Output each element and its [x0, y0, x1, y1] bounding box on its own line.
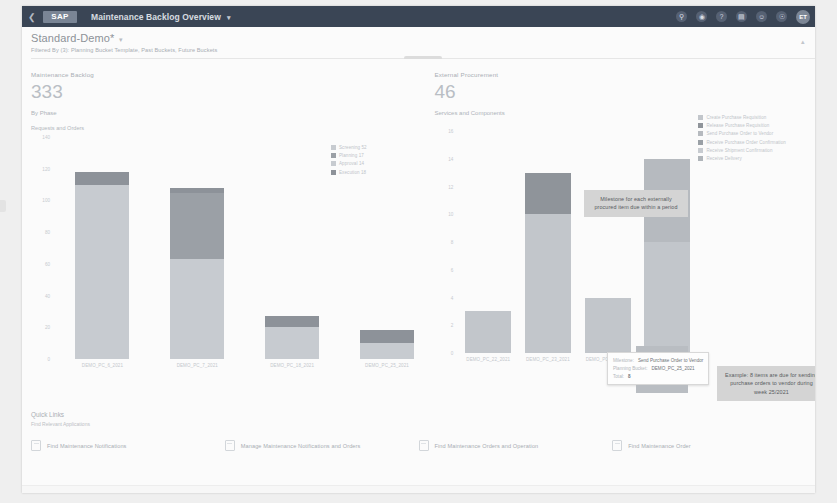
bar-segment[interactable]: [465, 311, 511, 353]
legend-item[interactable]: Receive Shipment Confirmation: [698, 148, 786, 153]
tooltip-row-milestone: Milestone: Send Purchase Order to Vendor: [613, 357, 703, 365]
stacked-bar[interactable]: [525, 173, 571, 353]
bar-group-left: [55, 137, 434, 359]
back-icon[interactable]: ❮: [28, 12, 36, 22]
bar-segment[interactable]: [170, 193, 224, 260]
variant-row: Standard-Demo* ▾: [31, 32, 815, 44]
bell-icon[interactable]: ☉: [776, 11, 787, 22]
bar-segment[interactable]: [265, 327, 319, 359]
bar-segment[interactable]: [75, 185, 129, 245]
chevron-down-icon[interactable]: ▾: [119, 36, 123, 44]
app-tile-icon: [612, 440, 622, 451]
footer-bar: [22, 485, 815, 493]
stacked-bar[interactable]: [465, 311, 511, 353]
stacked-bar[interactable]: [644, 159, 690, 353]
filtered-by-text[interactable]: Filtered By (3): Planning Bucket Templat…: [31, 47, 815, 53]
y-axis-tick: 100: [42, 198, 50, 203]
bar-segment[interactable]: [265, 316, 319, 327]
y-axis-tick: 120: [42, 166, 50, 171]
notes-icon[interactable]: ▤: [736, 11, 747, 22]
quick-link-item[interactable]: Find Maintenance Order: [612, 440, 806, 451]
bar-segment[interactable]: [360, 343, 414, 359]
bar-slot: [245, 137, 340, 359]
legend-label: Execution 18: [339, 170, 366, 175]
callout-milestone: Milestone for each externally procured i…: [584, 190, 688, 217]
quick-links-subtitle: Find Relevant Applications: [31, 421, 806, 427]
help-icon[interactable]: ?: [716, 11, 727, 22]
y-axis-tick: 10: [448, 212, 453, 217]
plot-area-left: [55, 137, 434, 359]
bar-segment[interactable]: [170, 259, 224, 359]
bar-segment[interactable]: [585, 298, 631, 354]
app-tile-icon: [225, 440, 235, 451]
tooltip-total-key: Total:: [613, 373, 624, 381]
y-axis-tick: 8: [451, 240, 454, 245]
legend-item[interactable]: Send Purchase Order to Vendor: [698, 131, 786, 136]
tooltip-row-total: Total: 8: [613, 373, 703, 381]
legend-swatch-icon: [331, 153, 336, 158]
stacked-bar[interactable]: [360, 330, 414, 359]
y-axis-tick: 40: [45, 293, 50, 298]
app-title[interactable]: Maintenance Backlog Overview ▾: [91, 12, 231, 22]
search-icon[interactable]: ⚲: [676, 11, 687, 22]
x-axis-label: DEMO_PC_18_2021: [245, 363, 340, 368]
y-axis-tick: 4: [451, 295, 454, 300]
legend-item[interactable]: Create Purchase Requisition: [698, 115, 786, 120]
quick-link-label: Manage Maintenance Notifications and Ord…: [241, 443, 361, 449]
y-axis-tick: 14: [448, 156, 453, 161]
legend-left: Screening 52Planning 17Approval 14Execut…: [331, 145, 367, 175]
avatar[interactable]: ET: [796, 10, 810, 24]
x-axis-label: DEMO_PC_22_2021: [458, 357, 518, 362]
bar-segment[interactable]: [360, 330, 414, 343]
bar-segment[interactable]: [644, 242, 690, 353]
legend-swatch-icon: [698, 131, 703, 136]
variant-header: Standard-Demo* ▾ Filtered By (3): Planni…: [22, 27, 815, 59]
bar-segment[interactable]: [525, 173, 571, 215]
legend-item[interactable]: Execution 18: [331, 170, 367, 175]
bar-segment[interactable]: [75, 245, 129, 359]
legend-item[interactable]: Receive Delivery: [698, 156, 786, 161]
legend-item[interactable]: Receive Purchase Order Confirmation: [698, 140, 786, 145]
stacked-bar[interactable]: [75, 172, 129, 359]
legend-label: Receive Delivery: [706, 156, 741, 161]
quick-link-item[interactable]: Manage Maintenance Notifications and Ord…: [225, 440, 419, 451]
y-axis-tick: 0: [451, 351, 454, 356]
kpi-label: Maintenance Backlog: [31, 71, 434, 78]
chart-tooltip: Milestone: Send Purchase Order to Vendor…: [607, 352, 709, 385]
legend-item[interactable]: Approval 14: [331, 161, 367, 166]
legend-item[interactable]: Release Purchase Requisition: [698, 123, 786, 128]
sap-logo[interactable]: SAP: [43, 11, 77, 23]
tooltip-row-bucket: Planning Bucket: DEMO_PC_25_2021: [613, 365, 703, 373]
legend-item[interactable]: Screening 52: [331, 145, 367, 150]
legend-label: Approval 14: [339, 161, 364, 166]
plot-area-right: [458, 131, 697, 353]
quick-link-item[interactable]: Find Maintenance Notifications: [31, 440, 225, 451]
card-external-procurement: External Procurement 46 Services and Com…: [434, 59, 815, 377]
quick-links-section: Quick Links Find Relevant Applications F…: [31, 411, 806, 451]
page-title[interactable]: Standard-Demo*: [31, 32, 114, 44]
x-axis-left: DEMO_PC_6_2021DEMO_PC_7_2021DEMO_PC_18_2…: [55, 363, 434, 368]
stacked-bar[interactable]: [585, 298, 631, 354]
chevron-down-icon: ▾: [227, 14, 231, 21]
compass-icon[interactable]: ◉: [696, 11, 707, 22]
callout-example: Example: 8 items are due for sending pur…: [717, 366, 815, 401]
content-area: Maintenance Backlog 333 By Phase Request…: [22, 59, 815, 463]
kpi-label: External Procurement: [434, 71, 815, 78]
quick-link-label: Find Maintenance Order: [628, 443, 691, 449]
quick-link-item[interactable]: Find Maintenance Orders and Operation: [419, 440, 613, 451]
stacked-bar[interactable]: [265, 316, 319, 359]
stacked-bar[interactable]: [170, 188, 224, 359]
legend-label: Screening 52: [339, 145, 367, 150]
card-maintenance-backlog: Maintenance Backlog 333 By Phase Request…: [22, 59, 434, 377]
bar-segment[interactable]: [75, 172, 129, 185]
legend-label: Create Purchase Requisition: [706, 115, 766, 120]
window-edge-notch: [0, 200, 6, 212]
tooltip-bucket-key: Planning Bucket:: [613, 365, 647, 373]
bar-slot: [637, 131, 697, 353]
collapse-header-icon[interactable]: ▴: [801, 38, 805, 46]
bar-slot: [150, 137, 245, 359]
feedback-icon[interactable]: ☺: [756, 11, 767, 22]
bar-segment[interactable]: [525, 214, 571, 353]
tooltip-total-value: 8: [628, 373, 631, 381]
legend-item[interactable]: Planning 17: [331, 153, 367, 158]
